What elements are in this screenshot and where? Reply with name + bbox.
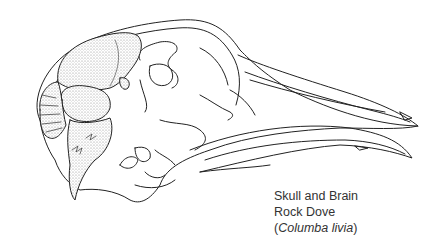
paren-close: ) [353, 221, 357, 235]
lower-beak [190, 126, 412, 172]
optic-lobe [61, 86, 110, 122]
brainstem [68, 118, 112, 200]
scientific-name-italic: Columba livia [278, 221, 353, 235]
orbit [139, 42, 178, 88]
caption-common-name: Rock Dove [274, 204, 358, 220]
caption-scientific-name: (Columba livia) [274, 220, 358, 236]
caption-title: Skull and Brain [274, 188, 358, 204]
figure-caption: Skull and Brain Rock Dove (Columba livia… [274, 188, 358, 236]
skull-brain-illustration [0, 0, 445, 241]
